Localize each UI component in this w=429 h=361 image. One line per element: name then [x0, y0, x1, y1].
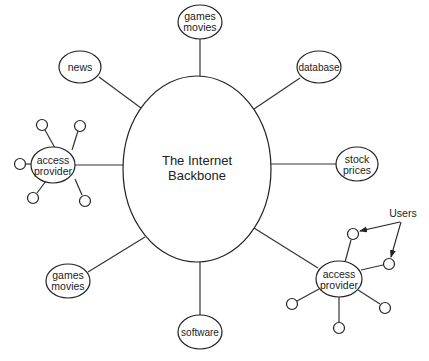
users-arrow-2: [391, 222, 401, 257]
link-news: [99, 77, 141, 108]
users-label: Users: [389, 207, 416, 219]
node-database: database: [297, 51, 341, 83]
svg-text:provider: provider: [320, 279, 358, 291]
node-software: software: [178, 315, 222, 349]
user-node: [380, 303, 391, 314]
svg-text:provider: provider: [34, 165, 72, 177]
user-node: [28, 193, 39, 204]
internet-backbone-diagram: The Internet Backbone games movies news …: [0, 0, 429, 361]
link-right-provider: [254, 228, 318, 268]
users-annotation: Users: [360, 207, 417, 257]
svg-text:news: news: [68, 61, 93, 73]
node-right-access-provider: access provider: [316, 261, 362, 297]
node-stock-prices: stock prices: [336, 147, 378, 181]
users-arrow-1: [360, 222, 400, 231]
link-database: [254, 78, 300, 109]
svg-text:database: database: [298, 62, 340, 73]
user-node: [80, 196, 91, 207]
svg-text:software: software: [181, 327, 219, 338]
user-node: [384, 259, 395, 270]
svg-text:movies: movies: [183, 21, 216, 33]
user-node: [287, 299, 298, 310]
node-left-access-provider: access provider: [31, 147, 75, 183]
user-node: [37, 120, 48, 131]
user-node: [348, 229, 359, 240]
link-bottom-games: [88, 237, 145, 272]
backbone-label-line1: The Internet: [162, 153, 232, 168]
svg-text:movies: movies: [51, 280, 84, 292]
backbone-node: The Internet Backbone: [123, 76, 271, 262]
user-node: [15, 159, 26, 170]
backbone-label-line2: Backbone: [168, 168, 226, 183]
svg-text:prices: prices: [343, 164, 371, 176]
node-news: news: [59, 51, 101, 83]
node-top-games-movies: games movies: [178, 5, 222, 39]
user-node: [334, 323, 345, 334]
user-node: [75, 121, 86, 132]
node-bottom-games-movies: games movies: [46, 264, 90, 298]
